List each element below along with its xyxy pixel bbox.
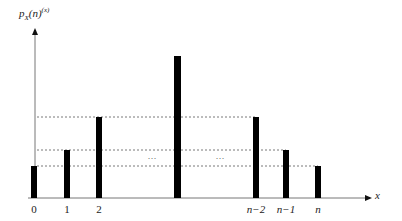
tick-1: 1 [64, 203, 70, 215]
bar-center [174, 56, 181, 198]
bar-0 [31, 166, 37, 198]
tick-n-2: n−2 [247, 203, 265, 215]
bar-n-1 [283, 150, 289, 198]
y-axis-arrow-icon [32, 28, 38, 35]
tick-n-1: n−1 [277, 203, 295, 215]
bar-n-2 [253, 117, 259, 198]
y-axis-label: pX(n)(x) [19, 6, 49, 22]
chart-canvas [0, 0, 402, 221]
tick-0: 0 [31, 203, 37, 215]
ellipsis-right: ··· [216, 153, 225, 163]
bar-n [315, 166, 321, 198]
x-axis-arrow-icon [365, 195, 372, 201]
bar-2 [96, 117, 102, 198]
tick-2: 2 [96, 203, 102, 215]
bars [31, 56, 321, 198]
bar-1 [64, 150, 70, 198]
tick-n: n [315, 203, 321, 215]
ellipsis-left: ··· [148, 153, 157, 163]
x-axis-label: x [375, 189, 380, 201]
